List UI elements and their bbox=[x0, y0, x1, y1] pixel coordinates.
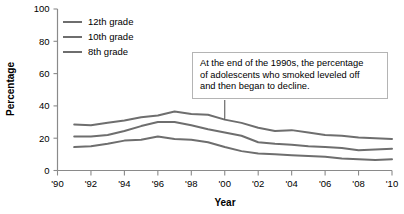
legend-label: 12th grade bbox=[88, 16, 133, 27]
annotation-callout: At the end of the 1990s, the percentage … bbox=[192, 52, 388, 99]
data-series-group bbox=[74, 112, 392, 160]
chart-legend: 12th grade 10th grade 8th grade bbox=[63, 14, 133, 59]
y-axis: 020406080100 bbox=[34, 3, 58, 176]
annotation-line-2: of adolescents who smoked leveled off bbox=[200, 70, 380, 82]
legend-item-12th-grade[interactable]: 12th grade bbox=[63, 14, 133, 29]
y-tick-label: 60 bbox=[39, 68, 50, 79]
y-axis-title: Percentage bbox=[5, 62, 16, 116]
x-tick-label: '02 bbox=[252, 178, 264, 189]
x-tick-label: '92 bbox=[85, 178, 97, 189]
x-tick-label: '90 bbox=[51, 178, 63, 189]
x-tick-label: '06 bbox=[319, 178, 331, 189]
y-tick-label: 100 bbox=[34, 3, 50, 14]
x-tick-label: '10 bbox=[386, 178, 398, 189]
x-tick-label: '04 bbox=[285, 178, 297, 189]
x-axis-tick-labels: '90'92'94'96'98'00'02'04'06'08'10 bbox=[51, 178, 398, 189]
y-axis-tick-labels: 020406080100 bbox=[34, 3, 50, 176]
legend-label: 8th grade bbox=[88, 46, 128, 57]
y-tick-label: 20 bbox=[39, 133, 50, 144]
legend-swatch-icon bbox=[63, 21, 82, 23]
y-tick-label: 40 bbox=[39, 100, 50, 111]
legend-item-8th-grade[interactable]: 8th grade bbox=[63, 44, 133, 59]
legend-item-10th-grade[interactable]: 10th grade bbox=[63, 29, 133, 44]
smoking-trend-chart: 020406080100 '90'92'94'96'98'00'02'04'06… bbox=[0, 0, 404, 214]
x-tick-label: '00 bbox=[219, 178, 231, 189]
annotation-line-3: and then began to decline. bbox=[200, 81, 380, 93]
x-tick-label: '94 bbox=[118, 178, 130, 189]
x-tick-label: '96 bbox=[152, 178, 164, 189]
x-axis-title: Year bbox=[214, 197, 235, 208]
legend-label: 10th grade bbox=[88, 31, 133, 42]
legend-swatch-icon bbox=[63, 51, 82, 53]
y-tick-label: 0 bbox=[44, 165, 49, 176]
annotation-line-1: At the end of the 1990s, the percentage bbox=[200, 58, 380, 70]
y-tick-label: 80 bbox=[39, 36, 50, 47]
x-axis: '90'92'94'96'98'00'02'04'06'08'10 bbox=[51, 171, 398, 189]
legend-swatch-icon bbox=[63, 36, 82, 38]
x-tick-label: '98 bbox=[185, 178, 197, 189]
x-tick-label: '08 bbox=[352, 178, 364, 189]
x-axis-ticks bbox=[58, 171, 393, 176]
chart-canvas: 020406080100 '90'92'94'96'98'00'02'04'06… bbox=[0, 0, 404, 214]
